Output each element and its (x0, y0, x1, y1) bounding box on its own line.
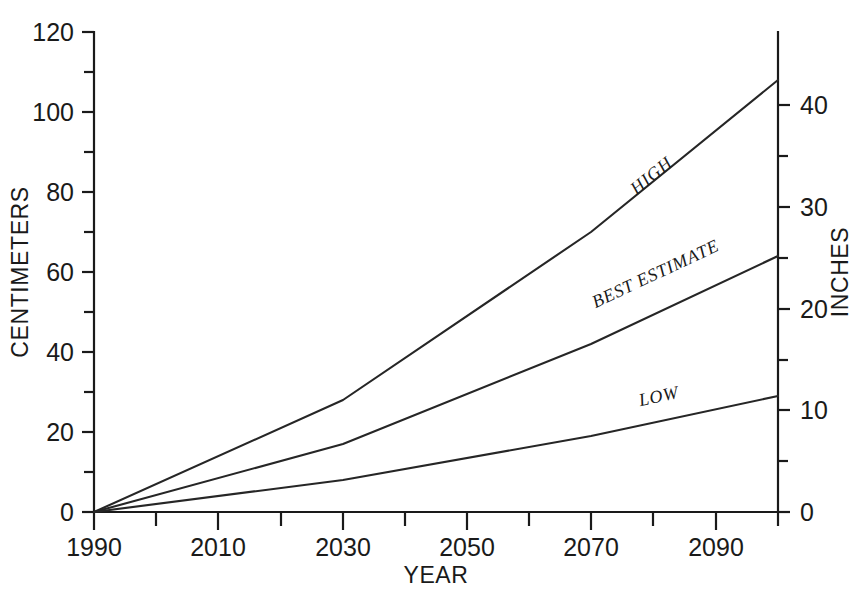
right-axis-tick-labels: 0 10 20 30 40 (800, 91, 828, 526)
series-line-low (94, 396, 778, 512)
left-tick-label-60: 60 (46, 258, 74, 286)
bottom-tick-label-2030: 2030 (315, 533, 371, 561)
data-series-group (94, 80, 778, 512)
chart-figure: 0 20 40 60 80 100 120 1990 2010 (0, 0, 862, 590)
bottom-axis-ticks (94, 512, 778, 530)
bottom-tick-label-2090: 2090 (688, 533, 744, 561)
left-tick-label-120: 120 (32, 18, 74, 46)
sea-level-rise-line-chart: 0 20 40 60 80 100 120 1990 2010 (0, 0, 862, 590)
series-label-best-estimate: BEST ESTIMATE (589, 235, 722, 311)
right-tick-label-40: 40 (800, 91, 828, 119)
left-tick-label-40: 40 (46, 338, 74, 366)
y-axis-title-right: INCHES (827, 227, 853, 318)
left-axis-tick-labels: 0 20 40 60 80 100 120 (32, 18, 74, 526)
x-axis-title: YEAR (403, 562, 468, 588)
y-axis-title-left: CENTIMETERS (7, 186, 33, 357)
bottom-axis-tick-labels: 1990 2010 2030 2050 2070 2090 (66, 533, 744, 561)
series-labels-group: HIGH BEST ESTIMATE LOW (589, 152, 722, 410)
bottom-tick-label-2010: 2010 (190, 533, 246, 561)
bottom-tick-label-2050: 2050 (439, 533, 495, 561)
left-tick-label-80: 80 (46, 178, 74, 206)
series-label-low: LOW (636, 382, 682, 410)
series-line-high (94, 80, 778, 512)
bottom-tick-label-2070: 2070 (563, 533, 619, 561)
left-tick-label-0: 0 (60, 498, 74, 526)
series-label-high: HIGH (625, 152, 676, 199)
right-axis-ticks (778, 105, 790, 512)
bottom-tick-label-1990: 1990 (66, 533, 122, 561)
left-axis-ticks (82, 32, 94, 512)
right-tick-label-10: 10 (800, 396, 828, 424)
left-tick-label-100: 100 (32, 98, 74, 126)
right-tick-label-0: 0 (800, 498, 814, 526)
left-tick-label-20: 20 (46, 418, 74, 446)
right-tick-label-30: 30 (800, 193, 828, 221)
right-tick-label-20: 20 (800, 295, 828, 323)
